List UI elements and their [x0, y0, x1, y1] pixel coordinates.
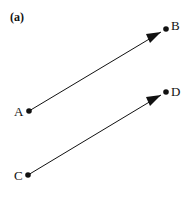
point-a-label: A [14, 105, 23, 118]
vector-diagram: (a) A B C D [0, 0, 193, 204]
point-b-dot-icon [163, 26, 169, 32]
point-b-label: B [171, 19, 180, 32]
vector-ab-line [29, 32, 161, 111]
vector-cd [28, 95, 161, 175]
point-d-label: D [171, 85, 180, 98]
vector-ab-arrowhead-icon [146, 32, 161, 43]
point-a-dot-icon [26, 108, 32, 114]
vector-cd-arrowhead-icon [146, 95, 161, 106]
point-c-dot-icon [25, 172, 31, 178]
point-c-label: C [14, 169, 23, 182]
vector-cd-line [28, 95, 161, 175]
vector-ab [29, 32, 161, 111]
diagram-canvas [0, 0, 193, 204]
point-d-dot-icon [163, 89, 169, 95]
